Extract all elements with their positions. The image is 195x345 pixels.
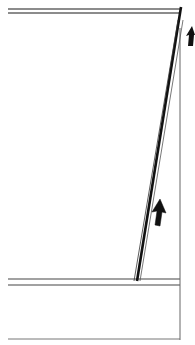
bottom-band [8,279,180,285]
diagram-canvas [0,0,195,345]
arrow-up-icon [152,199,166,226]
slanted-member [134,7,183,281]
top-band [8,9,180,13]
arrow-up-icon [186,26,195,46]
